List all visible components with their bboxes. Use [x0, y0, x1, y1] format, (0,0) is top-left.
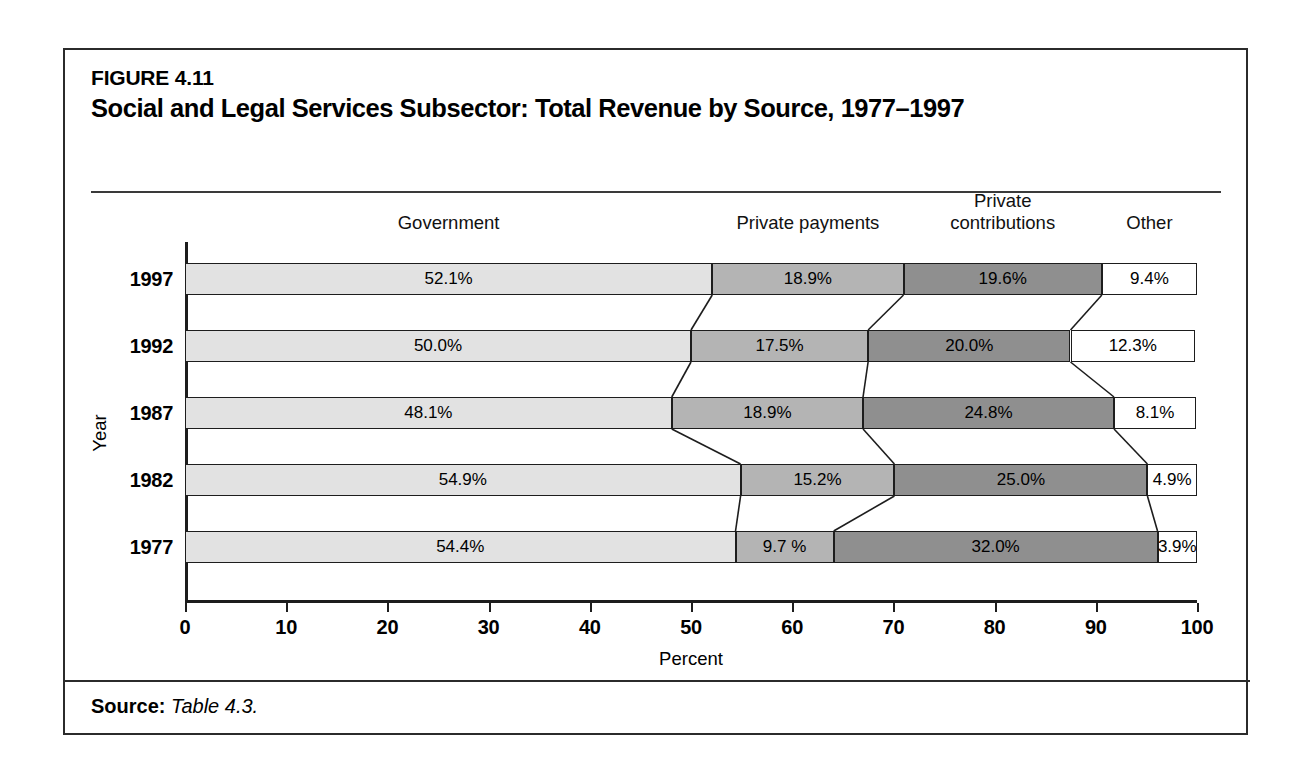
bar-segment: 50.0%: [185, 330, 691, 362]
year-label-1982: 1982: [101, 469, 173, 492]
bar-row: 54.4%9.7 %32.0%3.9%: [185, 531, 1197, 563]
connector-line: [1114, 429, 1147, 464]
x-tick-label-30: 30: [459, 616, 519, 639]
bar-segment: 18.9%: [672, 397, 863, 429]
connector-line: [672, 362, 691, 397]
bar-segment-label: 54.4%: [436, 537, 484, 557]
bar-segment: 3.9%: [1158, 531, 1197, 563]
connector-line: [736, 496, 741, 531]
bar-segment: 18.9%: [712, 263, 903, 295]
bar-row: 54.9%15.2%25.0%4.9%: [185, 464, 1197, 496]
bar-segment: 54.4%: [185, 531, 736, 563]
connector-line: [1071, 362, 1115, 397]
bar-segment-label: 54.9%: [439, 470, 487, 490]
bar-segment: 25.0%: [894, 464, 1147, 496]
bar-segment: 48.1%: [185, 397, 672, 429]
x-tick-label-80: 80: [965, 616, 1025, 639]
bar-segment: 8.1%: [1114, 397, 1196, 429]
x-axis-title: Percent: [185, 648, 1197, 670]
year-label-1987: 1987: [101, 402, 173, 425]
source-value: Table 4.3.: [171, 695, 258, 717]
bar-segment-label: 17.5%: [755, 336, 803, 356]
source-divider: [65, 680, 1250, 682]
connector-line: [863, 429, 894, 464]
source-label: Source:: [91, 695, 165, 717]
bar-row: 50.0%17.5%20.0%12.3%: [185, 330, 1197, 362]
bar-segment-label: 18.9%: [784, 269, 832, 289]
bar-segment-label: 8.1%: [1136, 403, 1175, 423]
bar-segment-label: 24.8%: [964, 403, 1012, 423]
connector-line: [691, 295, 712, 330]
bar-segment-label: 48.1%: [404, 403, 452, 423]
bar-segment-label: 3.9%: [1158, 537, 1197, 557]
x-tick: [185, 603, 187, 612]
figure-frame: FIGURE 4.11 Social and Legal Services Su…: [63, 48, 1248, 735]
bar-segment-label: 32.0%: [972, 537, 1020, 557]
source-note: Source: Table 4.3.: [91, 695, 258, 718]
x-tick: [995, 603, 997, 612]
x-tick-label-50: 50: [661, 616, 721, 639]
connector-line: [1147, 496, 1157, 531]
bar-segment: 24.8%: [863, 397, 1114, 429]
bar-segment: 12.3%: [1071, 330, 1195, 362]
connector-line: [672, 429, 741, 464]
x-tick-label-0: 0: [155, 616, 215, 639]
x-tick: [691, 603, 693, 612]
chart-plot-area: Year Percent GovernmentPrivate paymentsP…: [65, 50, 1250, 737]
bar-segment-label: 52.1%: [425, 269, 473, 289]
x-tick: [387, 603, 389, 612]
year-label-1997: 1997: [101, 268, 173, 291]
bar-segment-label: 25.0%: [997, 470, 1045, 490]
bar-segment-label: 12.3%: [1109, 336, 1157, 356]
x-tick: [792, 603, 794, 612]
column-header-government: Government: [339, 212, 559, 234]
connector-line: [1071, 295, 1102, 330]
x-tick-label-90: 90: [1066, 616, 1126, 639]
bar-segment: 9.4%: [1102, 263, 1197, 295]
bar-segment: 9.7 %: [736, 531, 834, 563]
bar-segment: 19.6%: [904, 263, 1102, 295]
bar-segment-label: 19.6%: [979, 269, 1027, 289]
x-tick: [286, 603, 288, 612]
connector-line: [868, 295, 903, 330]
bar-segment-label: 50.0%: [414, 336, 462, 356]
x-tick-label-10: 10: [256, 616, 316, 639]
bar-row: 48.1%18.9%24.8%8.1%: [185, 397, 1197, 429]
x-tick-label-20: 20: [357, 616, 417, 639]
year-label-1977: 1977: [101, 536, 173, 559]
connector-line: [834, 496, 895, 531]
bar-segment: 17.5%: [691, 330, 868, 362]
x-tick-label-40: 40: [560, 616, 620, 639]
bar-segment-label: 9.7 %: [763, 537, 806, 557]
column-header-private-payments: Private payments: [698, 212, 918, 234]
bar-segment-label: 9.4%: [1130, 269, 1169, 289]
bar-segment-label: 18.9%: [743, 403, 791, 423]
column-header-other: Other: [1039, 212, 1259, 234]
x-tick: [1197, 603, 1199, 612]
x-tick: [893, 603, 895, 612]
x-tick-label-100: 100: [1167, 616, 1227, 639]
bar-segment: 54.9%: [185, 464, 741, 496]
x-tick-label-70: 70: [863, 616, 923, 639]
bar-segment-label: 15.2%: [793, 470, 841, 490]
bar-segment: 52.1%: [185, 263, 712, 295]
x-tick: [590, 603, 592, 612]
bar-segment-label: 20.0%: [945, 336, 993, 356]
bar-segment-label: 4.9%: [1153, 470, 1192, 490]
year-label-1992: 1992: [101, 335, 173, 358]
x-tick: [489, 603, 491, 612]
bar-row: 52.1%18.9%19.6%9.4%: [185, 263, 1197, 295]
bar-segment: 32.0%: [834, 531, 1158, 563]
bar-segment: 4.9%: [1147, 464, 1197, 496]
connector-line: [863, 362, 868, 397]
x-tick-label-60: 60: [762, 616, 822, 639]
x-tick: [1096, 603, 1098, 612]
bar-segment: 20.0%: [868, 330, 1070, 362]
bar-segment: 15.2%: [741, 464, 895, 496]
